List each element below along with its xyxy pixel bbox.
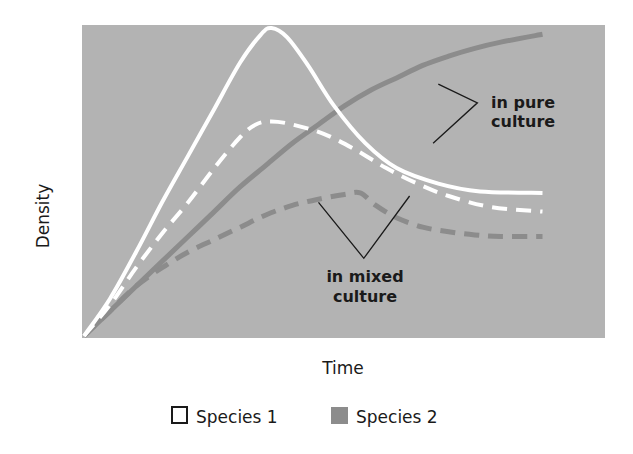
y-axis-label: Density [33,184,53,249]
legend-swatch-species-2 [331,407,348,424]
mixed-culture-label-line-1: in mixed [326,267,403,286]
legend-label-species-2: Species 2 [356,407,438,427]
legend-swatch-species-1 [172,407,187,423]
mixed-culture-label-line-2: culture [333,287,397,306]
legend-label-species-1: Species 1 [196,407,278,427]
pure-culture-label-line-1: in pure [491,93,555,112]
chart: in pure culture in mixed culture Density… [0,0,633,454]
pure-culture-label-line-2: culture [491,112,555,131]
legend: Species 1 Species 2 [172,407,438,427]
x-axis-label: Time [321,358,364,378]
